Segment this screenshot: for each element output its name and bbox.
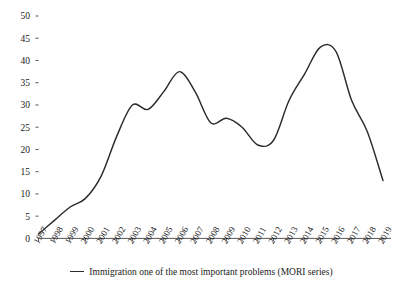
x-axis-tick-label: 2018 — [360, 224, 378, 245]
x-axis-tick-label: 2012 — [266, 225, 284, 246]
x-axis-tick-label: 2002 — [110, 225, 128, 246]
y-axis-tick-label: 5 — [25, 212, 30, 222]
x-axis-tick-label: 2007 — [188, 224, 206, 245]
x-axis-tick-label: 2003 — [126, 224, 144, 245]
x-axis-tick-labels: 1997199819992000200120022003200420052006… — [32, 224, 394, 245]
y-axis-tick-label: 50 — [21, 11, 31, 21]
x-axis-tick-label: 2004 — [141, 224, 159, 245]
x-axis-tick-label: 1999 — [63, 224, 81, 245]
y-axis-tick-label: 30 — [21, 100, 31, 110]
x-axis-tick-label: 2011 — [251, 225, 268, 245]
x-axis-tick-label: 1998 — [47, 224, 65, 245]
line-chart-plot: 05101520253035404550 1997199819992000200… — [0, 0, 403, 295]
x-axis-tick-label: 2006 — [173, 224, 191, 245]
chart-legend: Immigration one of the most important pr… — [0, 262, 403, 279]
x-axis-tick-label: 2005 — [157, 224, 175, 245]
chart-figure: 05101520253035404550 1997199819992000200… — [0, 0, 403, 295]
y-axis-tick-label: 20 — [21, 145, 31, 155]
x-axis-tick-label: 2008 — [204, 224, 222, 245]
x-axis-tick-label: 2009 — [219, 224, 237, 245]
y-axis-tick-marks — [36, 16, 39, 216]
y-axis-tick-label: 0 — [25, 234, 30, 244]
x-axis-tick-label: 2010 — [235, 224, 253, 245]
x-axis-tick-label: 2019 — [376, 224, 394, 245]
x-axis-tick-label: 2015 — [313, 224, 331, 245]
legend-item-label: Immigration one of the most important pr… — [89, 265, 332, 279]
x-axis-tick-label: 2013 — [282, 224, 300, 245]
y-axis-tick-label: 15 — [21, 167, 31, 177]
x-axis-tick-label: 2014 — [298, 224, 316, 245]
y-axis-tick-label: 45 — [21, 34, 31, 44]
data-series-line — [39, 45, 384, 234]
legend-line-swatch — [70, 271, 84, 272]
y-axis-tick-label: 10 — [21, 189, 31, 199]
x-axis-tick-label: 2016 — [329, 224, 347, 245]
y-axis-tick-label: 35 — [21, 78, 31, 88]
y-axis-tick-labels: 05101520253035404550 — [21, 11, 31, 243]
y-axis-tick-label: 25 — [21, 123, 31, 133]
y-axis-tick-label: 40 — [21, 56, 31, 66]
x-axis-tick-label: 2001 — [94, 225, 112, 246]
legend-item: Immigration one of the most important pr… — [70, 265, 332, 279]
x-axis-tick-label: 2000 — [79, 224, 97, 245]
x-axis-tick-label: 2017 — [345, 224, 363, 245]
